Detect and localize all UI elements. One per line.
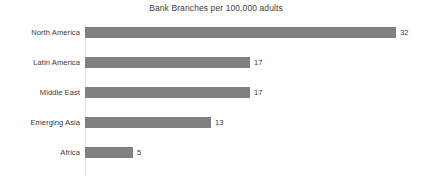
bar-row: Middle East 17 [0,82,432,112]
bar-africa [85,147,133,158]
chart-title: Bank Branches per 100,000 adults [0,3,432,13]
bar-row: Africa 5 [0,142,432,172]
bar-emerging-asia [85,117,211,128]
bar-row: Emerging Asia 13 [0,112,432,142]
bar-value-emerging-asia: 13 [215,118,223,127]
bar-value-north-america: 32 [400,28,408,37]
category-label-middle-east: Middle East [0,88,80,97]
category-label-emerging-asia: Emerging Asia [0,118,80,127]
bar-latin-america [85,57,250,68]
bar-value-latin-america: 17 [254,58,262,67]
category-label-africa: Africa [0,148,80,157]
category-label-latin-america: Latin America [0,58,80,67]
plot-area: North America 32 Latin America 17 Middle… [0,22,432,177]
bar-middle-east [85,87,250,98]
bar-chart: Bank Branches per 100,000 adults North A… [0,0,432,185]
bar-value-africa: 5 [137,148,141,157]
bar-row: Latin America 17 [0,52,432,82]
bar-row: North America 32 [0,22,432,52]
category-label-north-america: North America [0,28,80,37]
bar-value-middle-east: 17 [254,88,262,97]
bar-north-america [85,27,396,38]
